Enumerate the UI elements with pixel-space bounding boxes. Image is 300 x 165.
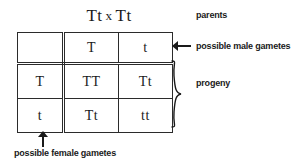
progeny-cell-Tt-2: Tt <box>64 99 119 133</box>
cross-operator: x <box>103 8 116 23</box>
progeny-row-2: t Tt tt <box>18 99 173 133</box>
progeny-brace-icon <box>170 60 182 128</box>
label-parents: parents <box>196 10 227 20</box>
arrow-up-icon <box>38 131 49 146</box>
progeny-cell-TT: TT <box>64 64 119 99</box>
grid-corner-cell <box>18 33 64 64</box>
punnett-square-diagram: TtxTt T t T TT Tt t Tt tt par <box>0 0 300 165</box>
male-gamete-header-row: T t <box>18 33 173 64</box>
right-parent-genotype: Tt <box>116 6 132 25</box>
progeny-row-1: T TT Tt <box>18 64 173 99</box>
punnett-grid: T t T TT Tt t Tt tt <box>17 32 173 133</box>
label-possible-female-gametes: possible female gametes <box>14 148 116 158</box>
arrow-left-icon <box>172 40 191 51</box>
male-gamete-t: t <box>119 33 173 64</box>
left-parent-genotype: Tt <box>86 6 102 25</box>
male-gamete-T: T <box>64 33 119 64</box>
progeny-cell-Tt-1: Tt <box>119 64 173 99</box>
female-gamete-T: T <box>18 64 64 99</box>
parental-cross-heading: TtxTt <box>50 6 168 26</box>
label-progeny: progeny <box>196 78 230 88</box>
progeny-cell-tt: tt <box>119 99 173 133</box>
label-possible-male-gametes: possible male gametes <box>196 41 290 51</box>
female-gamete-t: t <box>18 99 64 133</box>
